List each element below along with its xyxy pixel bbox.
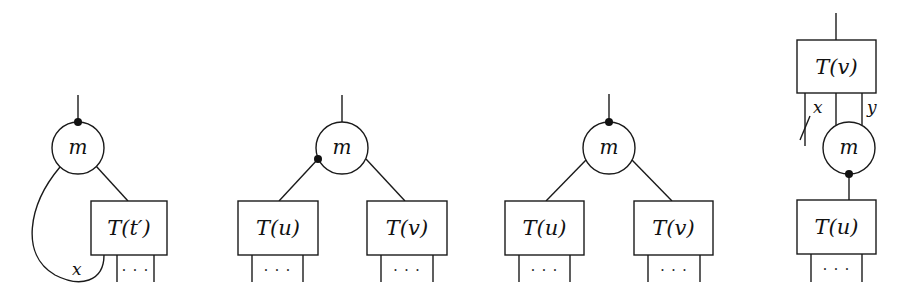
ellipsis: · · · bbox=[531, 262, 558, 278]
box-label: T(u) bbox=[256, 216, 300, 240]
root-dot-icon bbox=[845, 170, 853, 178]
wire bbox=[546, 160, 586, 201]
ellipsis: · · · bbox=[264, 262, 291, 278]
multiplication-node: m bbox=[583, 122, 635, 174]
node-label: m bbox=[840, 135, 859, 159]
node-label: m bbox=[333, 135, 352, 159]
box-label: T(u) bbox=[523, 216, 567, 240]
node-label: m bbox=[69, 135, 88, 159]
box-label: T(v) bbox=[815, 55, 857, 79]
tree-box: T(u)· · · bbox=[505, 201, 584, 282]
tree-box: T(v) bbox=[797, 40, 876, 93]
diagram-2: T(u)· · ·T(v)· · ·m bbox=[238, 95, 447, 282]
root-dot-icon bbox=[314, 155, 322, 163]
wire bbox=[279, 159, 318, 201]
wire-label: y bbox=[866, 97, 877, 117]
root-dot-icon bbox=[74, 118, 82, 126]
diagram-3: T(u)· · ·T(v)· · ·m bbox=[505, 94, 713, 282]
ellipsis: · · · bbox=[393, 262, 420, 278]
box-label: T(u) bbox=[815, 215, 859, 239]
tree-box: T(v)· · · bbox=[367, 201, 447, 282]
ellipsis: · · · bbox=[660, 262, 687, 278]
box-label: T(t′) bbox=[107, 216, 151, 240]
wire-label: x bbox=[813, 97, 823, 117]
diagram-4: T(v)T(u)· · ·mxy bbox=[797, 13, 877, 282]
box-label: T(v) bbox=[652, 216, 694, 240]
node-label: m bbox=[600, 135, 619, 159]
multiplication-node: m bbox=[823, 122, 875, 174]
diagram-1: T(t′)· · ·mx bbox=[32, 95, 167, 282]
wire-label: x bbox=[72, 259, 82, 279]
ellipsis: · · · bbox=[122, 262, 149, 278]
wire bbox=[632, 160, 672, 201]
tree-box: T(u)· · · bbox=[238, 201, 318, 282]
multiplication-node: m bbox=[52, 122, 104, 174]
root-dot-icon bbox=[605, 118, 613, 126]
tree-box: T(t′)· · · bbox=[91, 201, 167, 282]
multiplication-node: m bbox=[316, 122, 368, 174]
tree-box: T(u)· · · bbox=[797, 200, 876, 282]
string-diagrams-svg: T(t′)· · ·mxT(u)· · ·T(v)· · ·mT(u)· · ·… bbox=[0, 0, 905, 302]
tree-box: T(v)· · · bbox=[634, 201, 713, 282]
diagram-figure: T(t′)· · ·mxT(u)· · ·T(v)· · ·mT(u)· · ·… bbox=[0, 0, 905, 302]
wire bbox=[96, 166, 128, 201]
wire bbox=[366, 159, 405, 201]
ellipsis: · · · bbox=[823, 261, 850, 277]
box-label: T(v) bbox=[386, 216, 428, 240]
